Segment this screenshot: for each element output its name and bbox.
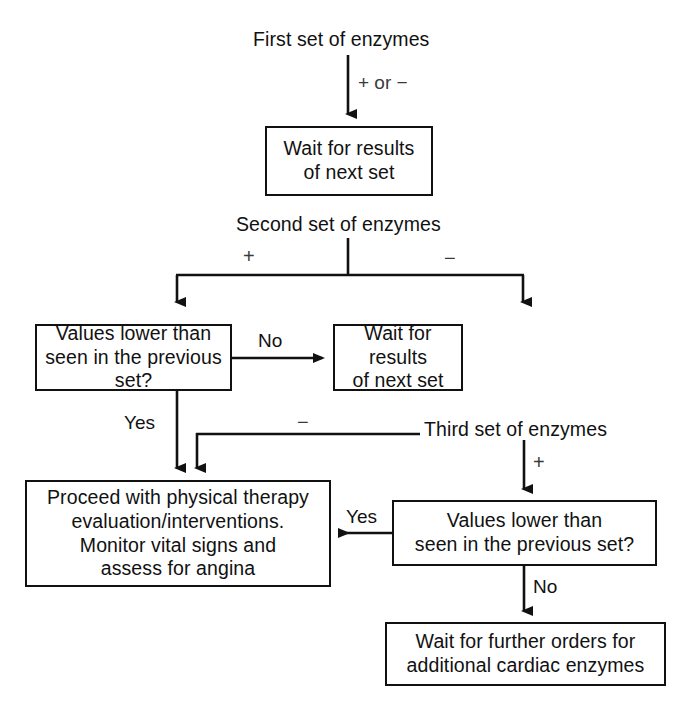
edge-label-no-1: No [258,330,282,353]
node-box-wait-next-set-2[interactable]: Wait for results of next set [333,324,463,391]
node-box-values-lower-1[interactable]: Values lower than seen in the previous s… [35,324,232,391]
node-box-values-lower-2[interactable]: Values lower than seen in the previous s… [392,500,657,566]
node-box-proceed-physical-therapy[interactable]: Proceed with physical therapy evaluation… [25,480,331,587]
edge-label-second-plus: + [243,246,255,266]
edge-label-third-minus: − [297,412,309,432]
edge-label-yes-2: Yes [346,506,377,529]
node-box-wait-further-orders[interactable]: Wait for further orders for additional c… [385,622,666,686]
flowchart-canvas: First set of enzymes Second set of enzym… [0,0,693,714]
edge-label-yes-1: Yes [124,412,155,435]
edge-label-third-plus: + [533,452,545,472]
node-label-first-set: First set of enzymes [253,28,429,51]
node-box-wait-next-set-1[interactable]: Wait for results of next set [265,126,433,196]
node-label-third-set: Third set of enzymes [424,418,607,441]
node-label-second-set: Second set of enzymes [236,213,441,236]
edge-label-no-2: No [533,576,557,599]
edge-label-second-minus: − [444,248,456,268]
edge-label-plus-or-minus: + or − [358,72,408,95]
